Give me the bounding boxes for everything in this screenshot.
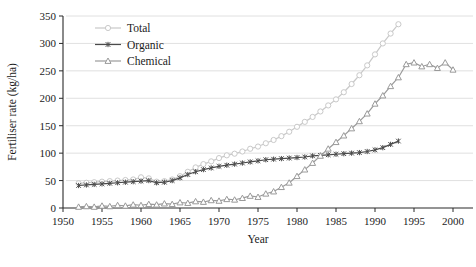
legend-label-total: Total: [127, 22, 150, 34]
legend-label-chemical: Chemical: [127, 55, 171, 67]
data-point-marker: [396, 22, 401, 27]
data-point-marker: [302, 119, 307, 124]
data-point-marker: [216, 155, 221, 160]
x-axis-tick-label: 1950: [52, 215, 75, 227]
x-axis-tick-label: 1990: [364, 215, 387, 227]
y-axis-tick-label: 350: [40, 10, 57, 22]
data-point-marker: [395, 74, 401, 79]
data-point-marker: [388, 31, 393, 36]
data-point-marker: [341, 90, 346, 95]
data-point-marker: [357, 73, 362, 78]
y-axis-tick-label: 50: [45, 175, 57, 187]
x-axis-tick-label: 2000: [442, 215, 465, 227]
y-axis-title: Fertiliser rate (kg/ha): [6, 63, 19, 161]
data-point-marker: [411, 60, 417, 65]
data-point-marker: [287, 129, 292, 134]
data-point-marker: [278, 184, 284, 189]
x-axis-title: Year: [247, 233, 268, 245]
data-point-marker: [326, 103, 331, 108]
y-axis-tick-label: 200: [40, 92, 57, 104]
y-axis-tick-label: 100: [40, 147, 57, 159]
y-axis-tick-label: 0: [51, 202, 57, 214]
chart-canvas: 0501001502002503003501950195519601965197…: [0, 0, 476, 267]
data-point-marker: [310, 114, 315, 119]
x-axis-tick-label: 1995: [403, 215, 426, 227]
data-point-marker: [263, 141, 268, 146]
y-axis-tick-label: 150: [40, 120, 57, 132]
x-axis-tick-label: 1965: [169, 215, 192, 227]
data-point-marker: [255, 144, 260, 149]
x-axis-tick-label: 1955: [91, 215, 114, 227]
data-point-marker: [248, 146, 253, 151]
data-point-marker: [294, 124, 299, 129]
data-point-marker: [240, 149, 245, 154]
data-point-marker: [271, 189, 277, 194]
y-axis-tick-label: 250: [40, 65, 57, 77]
fertiliser-rate-chart: 0501001502002503003501950195519601965197…: [0, 0, 476, 267]
data-point-marker: [365, 63, 370, 68]
y-axis-tick-label: 300: [40, 37, 57, 49]
data-point-marker: [105, 25, 110, 30]
data-point-marker: [349, 81, 354, 86]
data-point-marker: [224, 153, 229, 158]
data-point-marker: [201, 162, 206, 167]
data-point-marker: [209, 159, 214, 164]
data-point-marker: [271, 137, 276, 142]
data-point-marker: [333, 97, 338, 102]
data-point-marker: [318, 109, 323, 114]
x-axis-tick-label: 1970: [208, 215, 231, 227]
data-point-marker: [232, 151, 237, 156]
x-axis-tick-label: 1980: [286, 215, 309, 227]
x-axis-tick-label: 1960: [130, 215, 153, 227]
x-axis-tick-label: 1975: [247, 215, 270, 227]
x-axis-tick-label: 1985: [325, 215, 348, 227]
data-point-marker: [427, 61, 433, 66]
data-point-marker: [380, 41, 385, 46]
data-point-marker: [279, 134, 284, 139]
data-point-marker: [442, 60, 448, 65]
legend-label-organic: Organic: [127, 39, 164, 52]
series-line-chemical: [79, 63, 453, 207]
data-point-marker: [372, 52, 377, 57]
